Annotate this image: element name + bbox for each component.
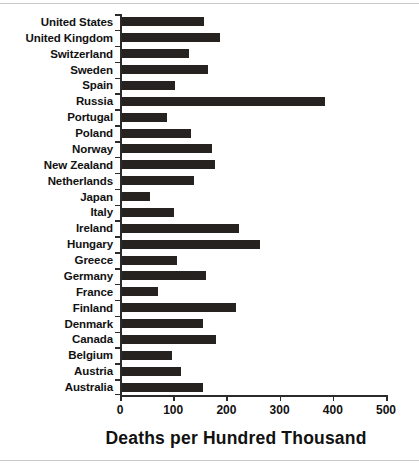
category-label-row: Portugal bbox=[4, 109, 117, 125]
category-tick-mark bbox=[115, 173, 120, 175]
category-tick-mark bbox=[115, 300, 120, 302]
category-tick-mark bbox=[115, 332, 120, 334]
category-label-row: Sweden bbox=[4, 62, 117, 78]
bar bbox=[122, 351, 172, 360]
category-tick-mark bbox=[115, 363, 120, 365]
bar-row bbox=[122, 284, 412, 300]
category-label-row: Australia bbox=[4, 379, 117, 395]
bar bbox=[122, 176, 194, 185]
bar-row bbox=[122, 363, 412, 379]
category-label-row: Switzerland bbox=[4, 46, 117, 62]
category-label-row: Norway bbox=[4, 141, 117, 157]
bar bbox=[122, 97, 325, 106]
bar-row bbox=[122, 93, 412, 109]
category-label-row: Canada bbox=[4, 332, 117, 348]
category-label-row: Austria bbox=[4, 363, 117, 379]
category-label-row: Denmark bbox=[4, 316, 117, 332]
bar bbox=[122, 65, 208, 74]
value-axis-line bbox=[120, 395, 386, 397]
bar bbox=[122, 319, 203, 328]
category-tick-mark bbox=[115, 220, 120, 222]
category-axis-labels: United StatesUnited KingdomSwitzerlandSw… bbox=[4, 14, 117, 395]
category-label-row: Finland bbox=[4, 300, 117, 316]
value-tick-mark bbox=[386, 395, 388, 401]
bar-chart-plot-area: United StatesUnited KingdomSwitzerlandSw… bbox=[0, 0, 419, 466]
category-label: Poland bbox=[75, 127, 113, 139]
category-label: Austria bbox=[74, 365, 113, 377]
category-label: Sweden bbox=[70, 64, 113, 76]
category-label: Netherlands bbox=[48, 175, 113, 187]
bar-row bbox=[122, 14, 412, 30]
bar-row bbox=[122, 78, 412, 94]
bar-row bbox=[122, 332, 412, 348]
category-label-row: Japan bbox=[4, 189, 117, 205]
category-tick-mark bbox=[115, 93, 120, 95]
bar bbox=[122, 224, 239, 233]
category-tick-mark bbox=[115, 109, 120, 111]
value-tick-mark bbox=[120, 395, 122, 401]
bar bbox=[122, 208, 174, 217]
bar bbox=[122, 271, 206, 280]
bar bbox=[122, 160, 215, 169]
category-label: Hungary bbox=[67, 238, 113, 250]
bar-row bbox=[122, 268, 412, 284]
category-label: Finland bbox=[73, 302, 113, 314]
value-tick-label: 400 bbox=[323, 403, 343, 417]
value-tick-mark bbox=[226, 395, 228, 401]
category-label: Greece bbox=[75, 254, 113, 266]
category-label: Ireland bbox=[76, 222, 113, 234]
category-tick-mark bbox=[115, 62, 120, 64]
category-label-row: Germany bbox=[4, 268, 117, 284]
bar bbox=[122, 129, 191, 138]
bar-row bbox=[122, 189, 412, 205]
category-label: New Zealand bbox=[44, 159, 113, 171]
bar-row bbox=[122, 236, 412, 252]
value-tick-label: 0 bbox=[117, 403, 124, 417]
category-label: Russia bbox=[76, 95, 113, 107]
category-label: Japan bbox=[80, 191, 113, 203]
category-tick-mark bbox=[115, 347, 120, 349]
bar bbox=[122, 383, 203, 392]
category-label: Portugal bbox=[67, 111, 113, 123]
category-tick-mark bbox=[115, 284, 120, 286]
category-label: United Kingdom bbox=[26, 32, 113, 44]
category-label: France bbox=[76, 286, 113, 298]
bar bbox=[122, 335, 216, 344]
bar-row bbox=[122, 300, 412, 316]
value-tick-mark bbox=[333, 395, 335, 401]
value-tick-label: 300 bbox=[270, 403, 290, 417]
bar bbox=[122, 287, 158, 296]
category-tick-mark bbox=[115, 379, 120, 381]
bar bbox=[122, 256, 177, 265]
category-label: Denmark bbox=[64, 318, 113, 330]
chart-figure: United StatesUnited KingdomSwitzerlandSw… bbox=[0, 0, 419, 466]
bar bbox=[122, 81, 175, 90]
category-tick-mark bbox=[115, 14, 120, 16]
category-label: Canada bbox=[72, 333, 113, 345]
category-tick-mark bbox=[115, 78, 120, 80]
bar bbox=[122, 49, 189, 58]
bar-row bbox=[122, 220, 412, 236]
category-label: United States bbox=[41, 16, 113, 28]
bar-row bbox=[122, 173, 412, 189]
bar bbox=[122, 367, 181, 376]
bar-row bbox=[122, 46, 412, 62]
bar bbox=[122, 113, 167, 122]
category-tick-mark bbox=[115, 189, 120, 191]
value-tick-mark bbox=[173, 395, 175, 401]
category-label-row: Netherlands bbox=[4, 173, 117, 189]
bar-series bbox=[122, 14, 412, 395]
bar bbox=[122, 144, 212, 153]
category-tick-mark bbox=[115, 157, 120, 159]
bar bbox=[122, 17, 204, 26]
category-label-row: United Kingdom bbox=[4, 30, 117, 46]
category-label-row: Poland bbox=[4, 125, 117, 141]
bar-row bbox=[122, 379, 412, 395]
value-tick-label: 100 bbox=[163, 403, 183, 417]
category-label: Germany bbox=[64, 270, 113, 282]
category-tick-mark bbox=[115, 125, 120, 127]
category-tick-mark bbox=[115, 46, 120, 48]
value-tick-mark bbox=[280, 395, 282, 401]
value-tick-label: 500 bbox=[376, 403, 396, 417]
category-label-row: France bbox=[4, 284, 117, 300]
